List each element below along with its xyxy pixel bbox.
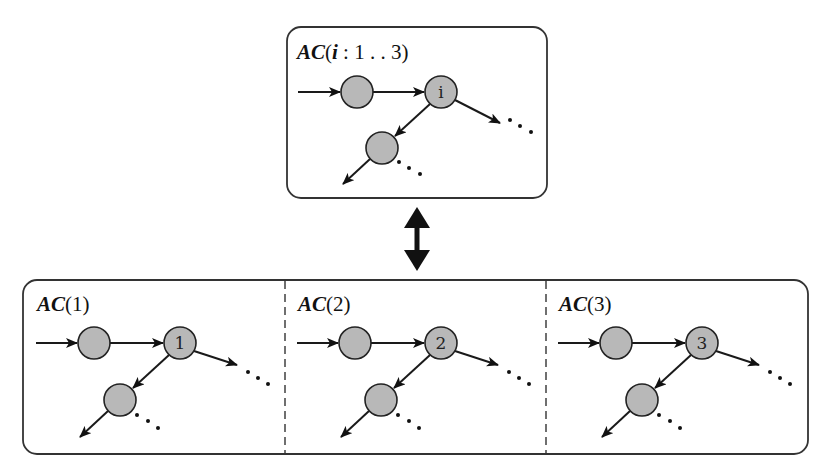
node-label: i [438,82,444,102]
state-node [366,132,398,164]
double-headed-vertical-arrow-icon [404,207,430,271]
instance-title: AC(3) [557,292,612,316]
edge-arrow-icon [455,351,498,365]
diagram-canvas: AC(i : 1 . . 3) i AC(1) [0,0,833,471]
edge-arrow-icon [341,411,369,437]
state-node [600,327,632,359]
ellipsis-icon [396,413,421,430]
edge-arrow-icon [394,355,430,388]
top-panel: AC(i : 1 . . 3) i [287,27,547,198]
edge-arrow-icon [655,355,691,388]
title-range: : 1 . . 3 [338,40,402,64]
ellipsis-icon [768,370,792,386]
title-arg: (2) [326,292,351,316]
title-arg: (1) [65,292,90,316]
bottom-panel: AC(1) 1 AC(2) 2 [23,280,808,454]
edge-arrow-icon [194,351,237,365]
state-node [626,384,658,416]
edge-arrow-icon [455,100,500,123]
state-node [78,327,110,359]
instance-panel-2: AC(2) 2 [296,292,531,437]
instance-title: AC(1) [35,292,90,316]
title-prefix: AC [557,292,588,316]
ellipsis-icon [508,118,533,134]
top-panel-title: AC(i : 1 . . 3) [295,40,408,64]
edge-arrow-icon [602,411,630,437]
edge-arrow-icon [133,355,169,388]
instance-panel-1: AC(1) 1 [35,292,270,437]
edge-arrow-icon [80,411,108,437]
title-close-paren: ) [401,40,408,64]
state-node [341,76,373,108]
state-node [339,327,371,359]
instance-title: AC(2) [296,292,351,316]
ellipsis-icon [246,370,270,386]
edge-arrow-icon [343,159,370,184]
ellipsis-icon [507,370,531,386]
node-label: 3 [697,333,708,353]
title-prefix: AC [35,292,66,316]
state-node [104,384,136,416]
title-arg: (3) [587,292,612,316]
title-prefix: AC [296,292,327,316]
title-open-paren: ( [325,40,332,64]
ellipsis-icon [397,160,422,176]
node-label: 2 [436,333,447,353]
edge-arrow-icon [716,351,759,365]
state-node [365,384,397,416]
edge-arrow-icon [395,104,430,136]
ellipsis-icon [135,413,160,430]
instance-panel-3: AC(3) 3 [557,292,792,437]
node-label: 1 [175,333,186,353]
title-prefix: AC [295,40,326,64]
ellipsis-icon [657,413,682,430]
